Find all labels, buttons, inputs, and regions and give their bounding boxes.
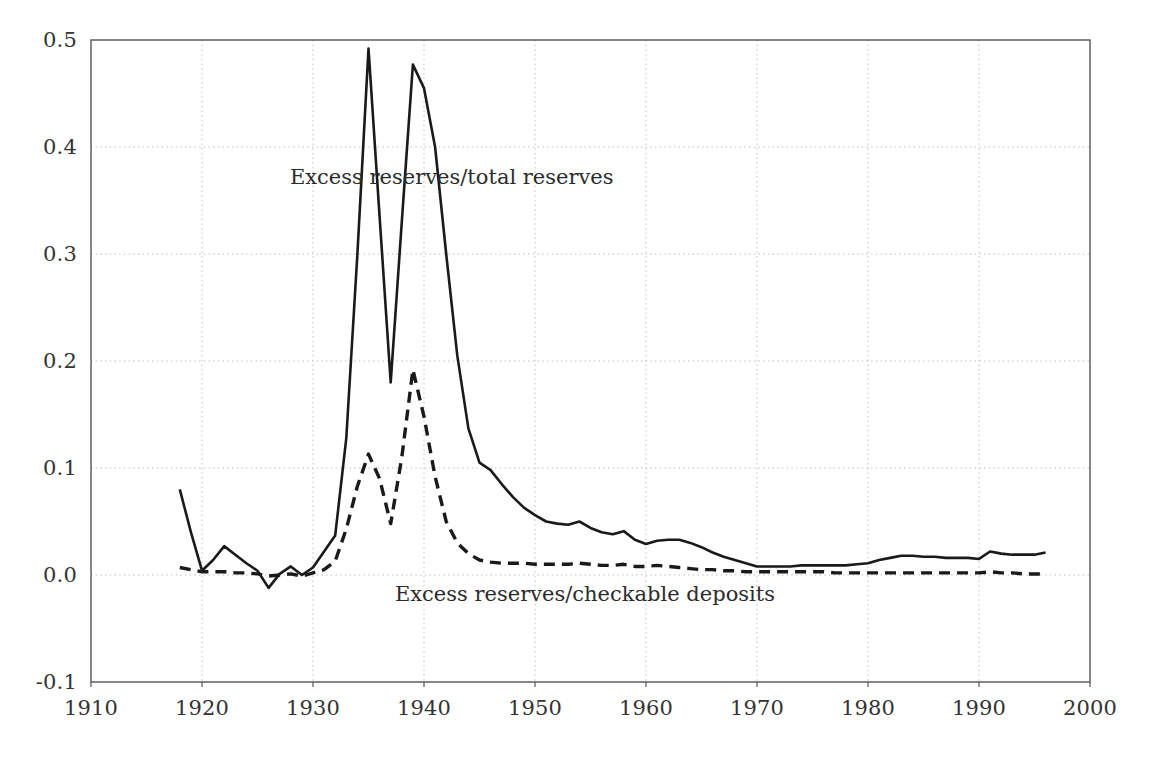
x-tick-label: 1980 xyxy=(841,696,895,720)
y-tick-label: 0.4 xyxy=(0,135,77,159)
x-tick-label: 1930 xyxy=(286,696,340,720)
x-tick-label: 1950 xyxy=(508,696,562,720)
x-tick-label: 1910 xyxy=(64,696,118,720)
chart-figure: -0.10.00.10.20.30.40.5 19101920193019401… xyxy=(0,0,1157,757)
y-tick-label: 0.5 xyxy=(0,28,77,52)
x-tick-label: 1920 xyxy=(175,696,229,720)
x-tick-label: 1940 xyxy=(397,696,451,720)
x-tick-label: 1990 xyxy=(952,696,1006,720)
x-tick-label: 1970 xyxy=(730,696,784,720)
tick-marks xyxy=(91,682,1090,687)
y-tick-label: -0.1 xyxy=(0,670,77,694)
y-tick-label: 0.2 xyxy=(0,349,77,373)
line-chart-plot xyxy=(0,0,1157,757)
x-tick-label: 1960 xyxy=(619,696,673,720)
series-annotation-2: Excess reserves/checkable deposits xyxy=(395,582,775,606)
series-layer xyxy=(180,49,1046,588)
series-annotation-1: Excess reserves/total reserves xyxy=(290,165,614,189)
y-tick-label: 0.0 xyxy=(0,563,77,587)
series-line-1 xyxy=(180,49,1046,588)
x-tick-label: 2000 xyxy=(1063,696,1117,720)
y-tick-label: 0.3 xyxy=(0,242,77,266)
y-tick-label: 0.1 xyxy=(0,456,77,480)
series-line-2 xyxy=(180,370,1046,577)
